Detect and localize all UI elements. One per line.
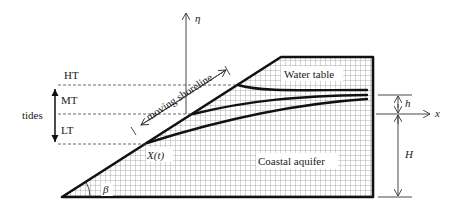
beach-slope-angle-label: β xyxy=(102,183,109,195)
aquifer-depth-label: H xyxy=(404,148,414,160)
right-dimensions: x h H xyxy=(376,95,440,197)
mean-tide-label: MT xyxy=(61,94,78,106)
low-tide-label: LT xyxy=(61,124,74,136)
x-axis-label: x xyxy=(434,107,440,119)
coastal-aquifer-diagram: η moving shoreline HT MT tides LT Water … xyxy=(0,0,463,212)
eta-axis-label: η xyxy=(195,12,200,24)
shoreline-position-label: X(t) xyxy=(146,149,164,162)
tides-label: tides xyxy=(22,109,43,121)
coastal-aquifer-label: Coastal aquifer xyxy=(258,155,325,167)
water-table-label: Water table xyxy=(284,68,334,80)
tide-amplitude-label: h xyxy=(405,97,411,109)
high-tide-label: HT xyxy=(64,69,79,81)
